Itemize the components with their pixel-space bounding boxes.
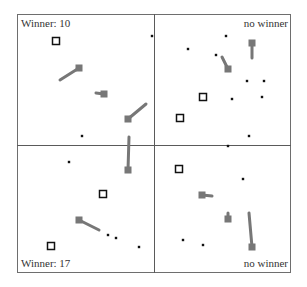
- panel-label-bottom-right: no winner: [244, 257, 288, 269]
- panel-label-top-right: no winner: [244, 17, 288, 29]
- panel-label-bottom-left: Winner: 17: [21, 257, 70, 269]
- agent-marker: [249, 244, 256, 251]
- simulation-scene: [0, 0, 307, 287]
- food-dot: [261, 96, 263, 98]
- target-square: [177, 115, 184, 122]
- agent-trail: [128, 137, 129, 170]
- target-square: [200, 94, 207, 101]
- food-dot: [187, 48, 189, 50]
- food-dot: [68, 161, 70, 163]
- food-dot: [246, 80, 248, 82]
- agent-marker: [76, 217, 83, 224]
- panel-label-top-left: Winner: 10: [21, 17, 70, 29]
- target-square: [176, 166, 183, 173]
- food-dot: [242, 178, 244, 180]
- food-dot: [182, 239, 184, 241]
- agent-trail: [249, 213, 252, 247]
- food-dot: [202, 244, 204, 246]
- food-dot: [263, 80, 265, 82]
- food-dot: [227, 145, 229, 147]
- agent-marker: [225, 216, 232, 223]
- agent-marker: [125, 167, 132, 174]
- agent-marker: [101, 91, 108, 98]
- target-square: [100, 191, 107, 198]
- agent-marker: [249, 40, 256, 47]
- agent-marker: [125, 116, 132, 123]
- food-dot: [231, 98, 233, 100]
- food-dot: [115, 237, 117, 239]
- food-dot: [225, 35, 227, 37]
- food-dot: [107, 234, 109, 236]
- food-dot: [151, 35, 153, 37]
- food-dot: [81, 135, 83, 137]
- agent-marker: [199, 192, 206, 199]
- target-square: [53, 38, 60, 45]
- agent-marker: [76, 65, 83, 72]
- food-dot: [248, 135, 250, 137]
- target-square: [48, 243, 55, 250]
- agent-marker: [225, 66, 232, 73]
- food-dot: [215, 54, 217, 56]
- food-dot: [138, 246, 140, 248]
